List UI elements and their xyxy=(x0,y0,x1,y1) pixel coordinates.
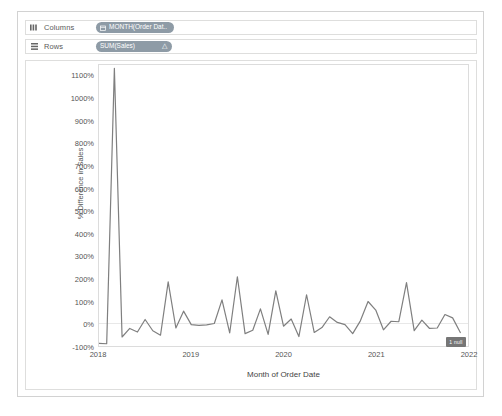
y-tick-label: 700% xyxy=(75,161,94,170)
pill-columns-text: MONTH(Order Dat.. xyxy=(109,24,169,31)
y-tick-label: 500% xyxy=(75,207,94,216)
x-axis-ticks: 20182019202020212022 xyxy=(98,350,469,362)
pill-rows-text: SUM(Sales) xyxy=(100,43,160,50)
sales-difference-line[interactable] xyxy=(99,68,460,343)
tableau-worksheet: Columns MONTH(Order Dat.. Rows SUM(Sales… xyxy=(17,11,484,397)
x-tick-label: 2021 xyxy=(368,350,385,359)
rows-shelf-icon xyxy=(29,41,40,52)
pill-month-order-date[interactable]: MONTH(Order Dat.. xyxy=(96,22,174,33)
plot-area xyxy=(98,64,469,347)
y-tick-label: 600% xyxy=(75,184,94,193)
pill-sum-sales[interactable]: SUM(Sales) △ xyxy=(96,41,172,52)
y-tick-label: 1100% xyxy=(71,71,94,80)
line-chart-svg xyxy=(99,65,468,346)
x-tick-label: 2020 xyxy=(275,350,292,359)
x-axis-title: Month of Order Date xyxy=(98,370,469,379)
x-tick-label: 2018 xyxy=(90,350,107,359)
y-tick-label: 800% xyxy=(75,139,94,148)
y-tick-label: 100% xyxy=(75,297,94,306)
chart-panel: % Difference in Sales 1100%1000%900%800%… xyxy=(25,60,477,390)
y-tick-label: 400% xyxy=(75,229,94,238)
y-tick-label: 1000% xyxy=(71,93,94,102)
rows-shelf-label: Rows xyxy=(44,42,96,51)
columns-shelf-icon xyxy=(29,22,40,33)
null-values-badge[interactable]: 1 null xyxy=(446,337,466,347)
columns-shelf[interactable]: Columns MONTH(Order Dat.. xyxy=(25,20,477,35)
screenshot-root: Columns MONTH(Order Dat.. Rows SUM(Sales… xyxy=(0,0,502,416)
x-tick-label: 2019 xyxy=(182,350,199,359)
x-tick-label: 2022 xyxy=(461,350,478,359)
y-tick-label: 300% xyxy=(75,252,94,261)
y-tick-label: 0% xyxy=(83,320,94,329)
y-axis-ticks: 1100%1000%900%800%700%600%500%400%300%20… xyxy=(48,61,94,389)
table-calculation-delta-icon: △ xyxy=(162,43,167,50)
columns-shelf-label: Columns xyxy=(44,23,96,32)
rows-shelf[interactable]: Rows SUM(Sales) △ xyxy=(25,39,477,54)
y-tick-label: 900% xyxy=(75,116,94,125)
calendar-icon xyxy=(100,25,106,31)
y-tick-label: 200% xyxy=(75,275,94,284)
